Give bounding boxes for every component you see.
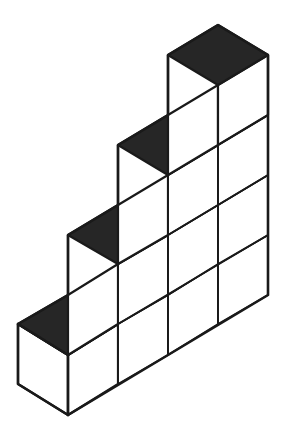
isometric-staircase-figure bbox=[0, 0, 295, 439]
figure-canvas bbox=[0, 0, 295, 439]
